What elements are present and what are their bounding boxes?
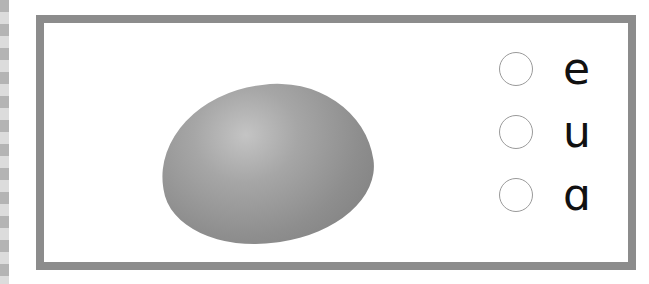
radio-circle-icon[interactable] xyxy=(499,178,533,212)
left-striped-margin xyxy=(0,0,9,284)
radio-circle-icon[interactable] xyxy=(499,52,533,86)
option-letter: e xyxy=(563,47,590,91)
option-u[interactable]: u xyxy=(499,107,619,157)
exercise-card: e u ɑ xyxy=(36,15,636,270)
option-letter: ɑ xyxy=(563,173,591,217)
radio-circle-icon[interactable] xyxy=(499,115,533,149)
egg-icon xyxy=(151,71,383,257)
option-letter: u xyxy=(563,110,591,154)
option-e[interactable]: e xyxy=(499,44,619,94)
option-a[interactable]: ɑ xyxy=(499,170,619,220)
